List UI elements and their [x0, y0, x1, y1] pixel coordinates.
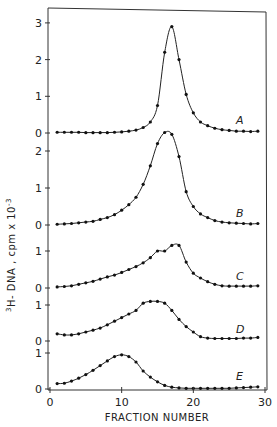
data-point [220, 337, 223, 340]
data-point [177, 318, 180, 321]
data-point [220, 220, 223, 223]
data-point [220, 387, 223, 390]
data-point [249, 386, 252, 389]
x-tick-label: 0 [47, 396, 54, 409]
data-point [70, 222, 73, 225]
data-point [213, 387, 216, 390]
data-point [84, 373, 87, 376]
y-axis-title: 3H- DNA , cpm x 10-3 [5, 198, 17, 312]
data-point [142, 183, 145, 186]
data-point [199, 276, 202, 279]
data-point [228, 387, 231, 390]
data-point [106, 131, 109, 134]
y-tick-label: 1 [35, 347, 42, 360]
data-point [249, 222, 252, 225]
data-point [235, 337, 238, 340]
data-point [256, 284, 259, 287]
data-point [206, 216, 209, 219]
data-point [170, 309, 173, 312]
data-point [56, 382, 59, 385]
data-point [177, 244, 180, 247]
x-axis-title: FRACTION NUMBER [105, 412, 210, 423]
data-point [249, 130, 252, 133]
plot-frame [48, 8, 267, 390]
y-tick-label: 1 [35, 245, 42, 258]
data-point [242, 285, 245, 288]
data-point [256, 385, 259, 388]
data-point [77, 377, 80, 380]
data-point [206, 280, 209, 283]
panel-b: 012B [35, 131, 259, 232]
data-point [113, 355, 116, 358]
data-point [70, 379, 73, 382]
data-point [127, 355, 130, 358]
data-point [63, 333, 66, 336]
data-point [177, 386, 180, 389]
data-point [170, 244, 173, 247]
data-point [213, 337, 216, 340]
data-point [199, 212, 202, 215]
data-point [149, 120, 152, 123]
data-point [242, 222, 245, 225]
data-point [120, 316, 123, 319]
data-point [99, 278, 102, 281]
data-point [163, 131, 166, 134]
data-point [70, 131, 73, 134]
data-point [113, 320, 116, 323]
data-point [63, 222, 66, 225]
data-point [156, 300, 159, 303]
data-point [242, 130, 245, 133]
data-point [134, 128, 137, 131]
data-point [163, 51, 166, 54]
data-point [235, 130, 238, 133]
data-point [192, 330, 195, 333]
data-point [63, 131, 66, 134]
data-point [99, 364, 102, 367]
data-point [91, 369, 94, 372]
data-point [170, 133, 173, 136]
y-tick-label: 2 [35, 145, 42, 158]
data-point [199, 335, 202, 338]
data-point [106, 323, 109, 326]
data-point [199, 120, 202, 123]
data-point [142, 302, 145, 305]
data-point [99, 326, 102, 329]
data-point [149, 376, 152, 379]
data-point [242, 386, 245, 389]
data-point [249, 337, 252, 340]
data-point [84, 220, 87, 223]
data-point [170, 386, 173, 389]
data-point [84, 131, 87, 134]
series-line-b [57, 131, 258, 224]
data-point [163, 249, 166, 252]
data-point [149, 256, 152, 259]
data-point [77, 283, 80, 286]
data-point [120, 130, 123, 133]
y-tick-label: 0 [35, 219, 42, 232]
data-point [220, 128, 223, 131]
data-point [235, 285, 238, 288]
data-point [185, 387, 188, 390]
data-point [70, 284, 73, 287]
data-point [185, 93, 188, 96]
data-point [70, 333, 73, 336]
data-point [99, 218, 102, 221]
panel-c: 01C [35, 244, 259, 295]
y-axis-title-exponent: -3 [5, 198, 13, 206]
data-point [134, 360, 137, 363]
data-point [91, 280, 94, 283]
top-border [48, 8, 266, 12]
data-point [56, 285, 59, 288]
data-point [127, 203, 130, 206]
y-tick-label: 2 [35, 54, 42, 67]
series-line-a [57, 27, 258, 133]
data-point [156, 104, 159, 107]
data-point [256, 222, 259, 225]
series-line-d [57, 301, 258, 338]
data-point [113, 213, 116, 216]
data-point [170, 25, 173, 28]
panel-label-d: D [236, 323, 244, 336]
data-point [77, 332, 80, 335]
data-point [192, 205, 195, 208]
data-point [127, 312, 130, 315]
